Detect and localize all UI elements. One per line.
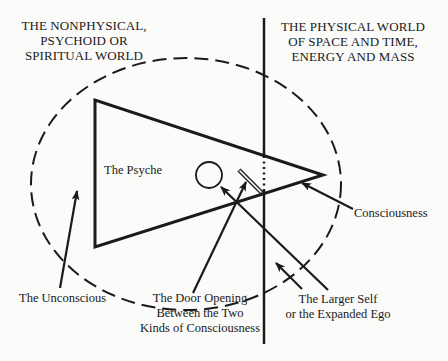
heading-line: PSYCHOID OR <box>14 33 154 48</box>
door-label-line: The Door Opening <box>139 291 261 306</box>
consciousness-arrow <box>302 183 353 209</box>
larger-self-arrow-to-ellipse <box>276 263 302 289</box>
door-label-line: Between the Two <box>139 306 261 321</box>
larger-self-label-line: The Larger Self <box>282 292 394 307</box>
heading-line: ENERGY AND MASS <box>278 49 428 64</box>
larger-self-label: The Larger Self or the Expanded Ego <box>282 292 394 322</box>
unconscious-label: The Unconscious <box>19 291 106 306</box>
larger-self-arrow-to-circle <box>221 187 328 290</box>
heading-line: THE NONPHYSICAL, <box>14 18 154 33</box>
ego-circle <box>196 162 222 188</box>
door-opening-label: The Door Opening Between the Two Kinds o… <box>139 291 261 336</box>
nonphysical-world-heading: THE NONPHYSICAL, PSYCHOID OR SPIRITUAL W… <box>14 18 154 63</box>
larger-self-label-line: or the Expanded Ego <box>282 307 394 322</box>
heading-line: OF SPACE AND TIME, <box>278 34 428 49</box>
heading-line: THE PHYSICAL WORLD <box>278 19 428 34</box>
diagram-canvas: THE NONPHYSICAL, PSYCHOID OR SPIRITUAL W… <box>0 0 448 361</box>
door-arrow-to-door <box>193 182 246 293</box>
physical-world-heading: THE PHYSICAL WORLD OF SPACE AND TIME, EN… <box>278 19 428 64</box>
consciousness-label: Consciousness <box>354 206 428 221</box>
heading-line: SPIRITUAL WORLD <box>14 48 154 63</box>
psyche-label: The Psyche <box>104 163 162 178</box>
door-label-line: Kinds of Consciousness <box>139 321 261 336</box>
unconscious-arrow <box>60 191 77 288</box>
